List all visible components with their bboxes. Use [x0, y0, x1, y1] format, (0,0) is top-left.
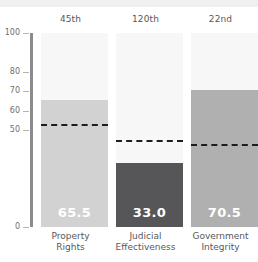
bar-value-property-rights: 65.5	[41, 205, 108, 220]
category-label-government-integrity: Government Integrity	[183, 231, 258, 253]
category-label-property-rights-line2: Rights	[33, 242, 108, 253]
category-label-judicial-effectiveness-line2: Effectiveness	[108, 242, 183, 253]
category-label-property-rights: Property Rights	[33, 231, 108, 253]
y-tick-60	[23, 111, 29, 112]
bar-judicial-effectiveness[interactable]: 33.0	[116, 163, 183, 227]
rank-label-government-integrity: 22nd	[183, 10, 258, 28]
bar-value-judicial-effectiveness: 33.0	[116, 205, 183, 220]
bar-property-rights[interactable]: 65.5	[41, 100, 108, 227]
category-label-government-integrity-line2: Integrity	[183, 242, 258, 253]
y-tick-70	[23, 91, 29, 92]
y-tick-label-70: 70	[0, 87, 20, 95]
reference-line-judicial-effectiveness	[116, 140, 183, 142]
y-tick-label-80: 80	[0, 68, 20, 76]
y-tick-label-100: 100	[0, 29, 20, 37]
reference-line-government-integrity	[191, 144, 258, 146]
category-label-property-rights-line1: Property	[33, 231, 108, 242]
rank-label-property-rights: 45th	[33, 10, 108, 28]
y-tick-label-0: 0	[0, 223, 20, 231]
plot-area: 65.5 33.0 70.5	[33, 33, 258, 227]
bar-government-integrity[interactable]: 70.5	[191, 90, 258, 227]
rank-label-row: 45th 120th 22nd	[33, 10, 258, 28]
y-tick-label-50: 50	[0, 126, 20, 134]
reference-line-property-rights	[41, 124, 108, 126]
y-tick-50	[23, 130, 29, 131]
rank-label-judicial-effectiveness: 120th	[108, 10, 183, 28]
y-tick-0	[23, 227, 29, 228]
y-tick-label-60: 60	[0, 107, 20, 115]
category-label-row: Property Rights Judicial Effectiveness G…	[33, 231, 258, 253]
bar-chart: 45th 120th 22nd 100 80 70 60 50 0 65.5 3…	[0, 0, 258, 262]
category-label-government-integrity-line1: Government	[183, 231, 258, 242]
category-label-judicial-effectiveness-line1: Judicial	[108, 231, 183, 242]
y-tick-100	[23, 33, 29, 34]
y-tick-80	[23, 72, 29, 73]
bar-value-government-integrity: 70.5	[191, 205, 258, 220]
top-edge-band	[0, 0, 258, 7]
category-label-judicial-effectiveness: Judicial Effectiveness	[108, 231, 183, 253]
